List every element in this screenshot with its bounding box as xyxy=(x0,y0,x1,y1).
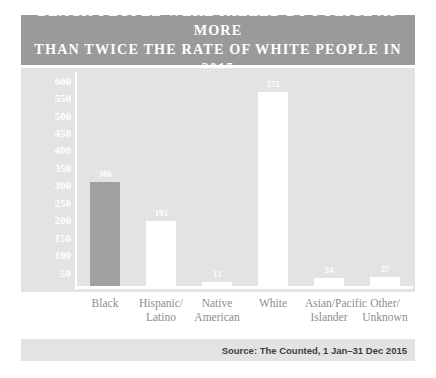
y-tick-label: 150 xyxy=(31,232,71,243)
chart-title: Black people were killed by police at mo… xyxy=(21,2,415,78)
x-axis-category-labels: BlackHispanic/ LatinoNative AmericanWhit… xyxy=(77,296,413,324)
y-tick-label: 250 xyxy=(31,197,71,208)
bar-value-label: 24 xyxy=(325,266,334,275)
category-label: Black xyxy=(81,296,129,324)
bar[interactable]: 572 xyxy=(258,92,288,286)
source-text: Source: The Counted, 1 Jan–31 Dec 2015 xyxy=(222,345,415,356)
category-label: Hispanic/ Latino xyxy=(137,296,185,324)
bar-value-label: 572 xyxy=(267,80,280,89)
y-tick-label: 450 xyxy=(31,128,71,139)
category-label: Native American xyxy=(193,296,241,324)
y-tick-label: 500 xyxy=(31,110,71,121)
bar-value-label: 306 xyxy=(99,170,112,179)
bar-value-label: 193 xyxy=(155,209,168,218)
category-label: Other/ Unknown xyxy=(361,296,409,324)
bar[interactable]: 306 xyxy=(90,182,120,286)
y-tick-label: 200 xyxy=(31,215,71,226)
y-tick-label: 400 xyxy=(31,145,71,156)
category-label: White xyxy=(249,296,297,324)
source-footer: Source: The Counted, 1 Jan–31 Dec 2015 xyxy=(21,339,415,361)
bar-slot: 24 xyxy=(305,74,353,286)
bar-slot: 572 xyxy=(249,74,297,286)
bar[interactable]: 193 xyxy=(146,221,176,286)
bar-value-label: 27 xyxy=(381,265,390,274)
bar-series: 306193135722427 xyxy=(77,74,413,286)
bar-value-label: 13 xyxy=(213,270,222,279)
bar-slot: 27 xyxy=(361,74,409,286)
bar[interactable]: 13 xyxy=(202,282,232,286)
y-tick-label: 50 xyxy=(31,267,71,278)
y-tick-label: 100 xyxy=(31,250,71,261)
y-tick-label: 300 xyxy=(31,180,71,191)
bar-slot: 13 xyxy=(193,74,241,286)
bar-slot: 306 xyxy=(81,74,129,286)
y-tick-label: 550 xyxy=(31,93,71,104)
plot-area: 60055050045040035030025020015010050 3061… xyxy=(21,68,415,292)
bar-slot: 193 xyxy=(137,74,185,286)
x-axis-line xyxy=(75,286,413,289)
y-tick-label: 350 xyxy=(31,162,71,173)
bar[interactable]: 24 xyxy=(314,278,344,286)
category-label: Asian/Pacific Islander xyxy=(305,296,353,324)
y-tick-label: 600 xyxy=(31,75,71,86)
chart-title-banner: Black people were killed by police at mo… xyxy=(21,15,415,65)
bar[interactable]: 27 xyxy=(370,277,400,286)
chart-figure: Black people were killed by police at mo… xyxy=(0,0,436,378)
